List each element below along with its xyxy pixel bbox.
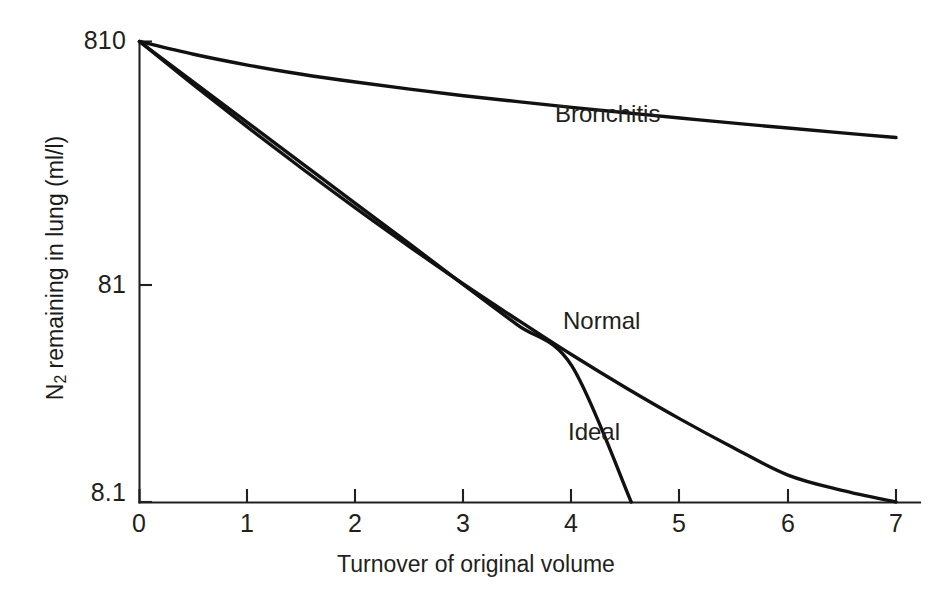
y-tick-label-810: 810 xyxy=(48,26,126,55)
y-axis-title-container: N2 remaining in lung (ml/l) xyxy=(42,68,82,468)
x-tick-label-6: 6 xyxy=(768,509,808,538)
series-curve-bronchitis xyxy=(140,42,897,138)
y-axis-title: N2 remaining in lung (ml/l) xyxy=(42,136,70,400)
y-axis-title-rest: remaining in lung (ml/l) xyxy=(42,136,68,375)
x-axis-title: Turnover of original volume xyxy=(0,551,952,578)
y-axis-title-symbol: N xyxy=(42,384,68,401)
x-tick-label-3: 3 xyxy=(443,509,483,538)
series-label-ideal: Ideal xyxy=(568,418,620,446)
series-curve-normal xyxy=(140,42,897,503)
x-tick-label-1: 1 xyxy=(227,509,267,538)
y-tick-label-8point1: 8.1 xyxy=(48,478,126,507)
chart-figure: 810 81 8.1 0 1 2 3 4 5 6 7 Turnover of o… xyxy=(0,0,952,602)
x-tick-label-0: 0 xyxy=(119,509,159,538)
series-label-bronchitis: Bronchitis xyxy=(555,100,660,128)
x-tick-label-2: 2 xyxy=(335,509,375,538)
x-tick-label-5: 5 xyxy=(659,509,699,538)
y-axis-title-subscript: 2 xyxy=(52,375,69,384)
x-tick-label-4: 4 xyxy=(551,509,591,538)
series-label-normal: Normal xyxy=(563,307,640,335)
x-tick-label-7: 7 xyxy=(876,509,916,538)
